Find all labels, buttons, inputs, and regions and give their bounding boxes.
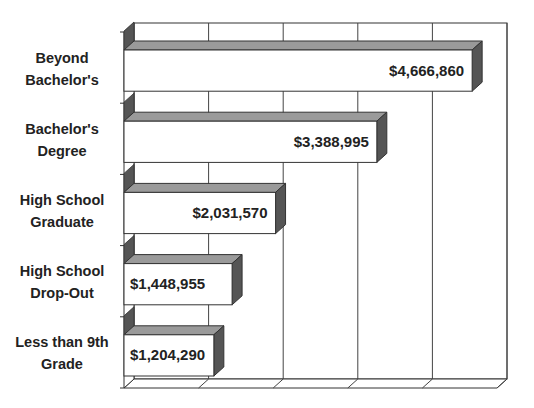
value-label: $1,204,290 (130, 346, 205, 364)
category-label: BeyondBachelor's (4, 47, 120, 91)
category-label: High SchoolGraduate (4, 189, 120, 233)
value-label: $1,448,955 (130, 275, 205, 293)
category-label: High SchoolDrop-Out (4, 260, 120, 304)
category-label: Bachelor'sDegree (4, 118, 120, 162)
value-label: $4,666,860 (389, 62, 464, 80)
category-label: Less than 9thGrade (4, 331, 120, 375)
value-label: $2,031,570 (192, 204, 267, 222)
value-label: $3,388,995 (294, 133, 369, 151)
